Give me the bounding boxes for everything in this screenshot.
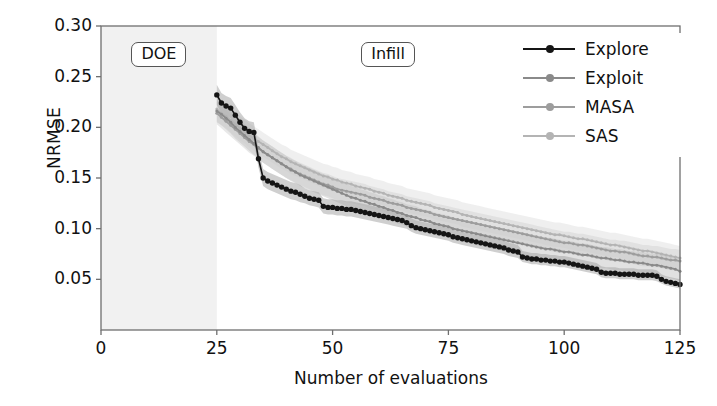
- legend-label-explore: Explore: [585, 39, 649, 59]
- legend-label-sas: SAS: [585, 126, 619, 146]
- x-tick-label: 25: [187, 338, 247, 358]
- y-tick-label: 0.15: [30, 167, 92, 187]
- x-tick-label: 125: [650, 338, 710, 358]
- legend-item[interactable]: MASA: [521, 92, 683, 121]
- x-tick-label: 0: [71, 338, 131, 358]
- legend-label-exploit: Exploit: [585, 68, 643, 88]
- annotation-doe: DOE: [131, 42, 186, 67]
- x-tick-label: 75: [418, 338, 478, 358]
- legend-label-masa: MASA: [585, 97, 634, 117]
- y-tick-label: 0.30: [30, 15, 92, 35]
- doe-region: [101, 26, 217, 330]
- legend-item[interactable]: Explore: [521, 34, 683, 63]
- y-tick-label: 0.25: [30, 66, 92, 86]
- annotation-infill: Infill: [361, 42, 415, 67]
- legend-swatch-exploit: [521, 69, 577, 87]
- legend-item[interactable]: Exploit: [521, 63, 683, 92]
- x-axis-label: Number of evaluations: [101, 368, 681, 388]
- x-tick-label: 100: [534, 338, 594, 358]
- y-tick-label: 0.20: [30, 116, 92, 136]
- y-tick-label: 0.05: [30, 268, 92, 288]
- figure: NRMSE Number of evaluations 0.050.100.15…: [0, 0, 717, 406]
- x-tick-label: 50: [303, 338, 363, 358]
- legend: Explore Exploit MASA SAS: [520, 33, 684, 157]
- y-tick-label: 0.10: [30, 218, 92, 238]
- legend-swatch-masa: [521, 98, 577, 116]
- legend-item[interactable]: SAS: [521, 121, 683, 150]
- legend-swatch-explore: [521, 40, 577, 58]
- legend-swatch-sas: [521, 127, 577, 145]
